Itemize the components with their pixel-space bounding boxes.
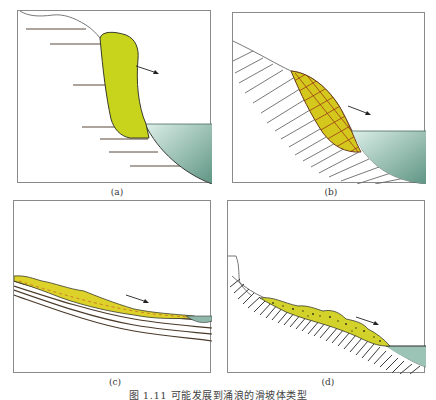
movement-arrow-icon: [126, 295, 149, 303]
panel-b: [232, 12, 425, 183]
panel-c: [13, 200, 211, 373]
panel-a-label: (a): [102, 187, 132, 197]
panel-b-label: (b): [316, 187, 346, 197]
movement-arrow-icon: [136, 66, 159, 74]
movement-arrow-icon: [348, 106, 371, 115]
rockfall-diagram: [18, 11, 212, 184]
panel-d-label: (d): [313, 377, 343, 387]
debris-flow-diagram: [228, 201, 426, 374]
translational-slide-diagram: [14, 201, 212, 374]
panel-c-label: (c): [100, 377, 130, 387]
rotational-slide-diagram: [233, 13, 426, 184]
panel-d: [227, 200, 425, 373]
figure-caption: 图 1.11 可能发展到涌浪的滑坡体类型: [0, 387, 436, 400]
panel-a: [17, 10, 211, 183]
